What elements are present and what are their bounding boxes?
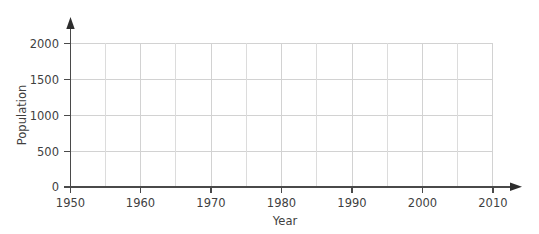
population-vs-year-chart: 2000 1500 1000 500 0 1950 1960 1970 1980… xyxy=(0,0,539,234)
y-tick-labels: 2000 1500 1000 500 0 xyxy=(30,37,59,195)
x-tick-label-2000: 2000 xyxy=(408,196,437,210)
x-tick-labels: 1950 1960 1970 1980 1990 2000 2010 xyxy=(56,196,508,210)
y-tick-label-1500: 1500 xyxy=(30,73,59,87)
y-axis-arrowhead xyxy=(66,17,74,29)
x-axis-title: Year xyxy=(272,214,298,228)
x-tick-label-1950: 1950 xyxy=(56,196,85,210)
y-tick-label-0: 0 xyxy=(52,180,59,194)
x-tick-label-1970: 1970 xyxy=(196,196,225,210)
y-tick-label-500: 500 xyxy=(37,145,59,159)
chart-canvas: 2000 1500 1000 500 0 1950 1960 1970 1980… xyxy=(0,0,539,234)
x-tick-label-2010: 2010 xyxy=(478,196,507,210)
x-tick-label-1960: 1960 xyxy=(126,196,155,210)
x-tick-label-1990: 1990 xyxy=(337,196,366,210)
x-axis-arrowhead xyxy=(510,183,522,191)
y-axis-title: Population xyxy=(15,85,29,145)
x-tick-label-1980: 1980 xyxy=(267,196,296,210)
y-tick-label-2000: 2000 xyxy=(30,37,59,51)
y-tick-label-1000: 1000 xyxy=(30,109,59,123)
